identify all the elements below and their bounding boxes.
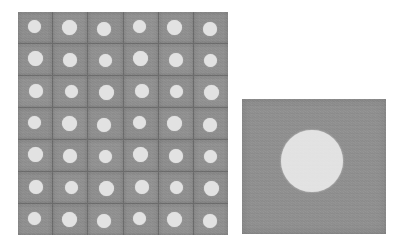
- array-feature-dot: [170, 181, 183, 194]
- array-cell[interactable]: [159, 108, 193, 139]
- array-cell[interactable]: [88, 108, 122, 139]
- array-cell[interactable]: [124, 140, 158, 171]
- array-cell[interactable]: [194, 172, 228, 203]
- array-overview-panel[interactable]: [18, 12, 228, 235]
- array-feature-dot: [203, 214, 217, 228]
- array-feature-dot: [203, 118, 217, 132]
- array-feature-dot: [97, 22, 111, 36]
- array-cell[interactable]: [53, 172, 87, 203]
- array-feature-dot: [133, 212, 146, 225]
- array-cell[interactable]: [53, 140, 87, 171]
- array-cell[interactable]: [88, 44, 122, 75]
- array-feature-dot: [133, 51, 148, 66]
- array-cell[interactable]: [159, 140, 193, 171]
- array-feature-dot: [204, 150, 217, 163]
- magnified-feature-dot: [281, 130, 343, 192]
- array-feature-dot: [135, 84, 149, 98]
- array-cell[interactable]: [18, 44, 52, 75]
- array-cell[interactable]: [194, 12, 228, 43]
- array-feature-dot: [133, 147, 148, 162]
- array-feature-dot: [97, 214, 111, 228]
- array-cell[interactable]: [124, 204, 158, 235]
- array-cell[interactable]: [194, 76, 228, 107]
- figure-root: [0, 0, 404, 250]
- feature-detail-panel[interactable]: [242, 99, 386, 234]
- array-cell[interactable]: [159, 76, 193, 107]
- array-feature-dot: [204, 54, 217, 67]
- array-feature-dot: [97, 118, 111, 132]
- array-feature-dot: [63, 149, 77, 163]
- array-feature-dot: [65, 181, 78, 194]
- array-cell[interactable]: [18, 108, 52, 139]
- array-feature-dot: [65, 85, 78, 98]
- array-feature-dot: [62, 20, 77, 35]
- array-cell[interactable]: [88, 12, 122, 43]
- array-cell[interactable]: [18, 204, 52, 235]
- array-feature-dot: [99, 181, 114, 196]
- array-feature-dot: [99, 54, 112, 67]
- array-cell[interactable]: [124, 76, 158, 107]
- array-cell[interactable]: [53, 204, 87, 235]
- array-feature-dot: [169, 149, 183, 163]
- array-feature-dot: [62, 116, 77, 131]
- array-cell[interactable]: [88, 76, 122, 107]
- array-cell[interactable]: [88, 204, 122, 235]
- array-cell[interactable]: [53, 12, 87, 43]
- array-feature-dot: [133, 20, 146, 33]
- array-feature-dot: [170, 85, 183, 98]
- array-cell[interactable]: [159, 44, 193, 75]
- array-feature-dot: [28, 116, 41, 129]
- array-cell[interactable]: [53, 44, 87, 75]
- array-feature-dot: [169, 53, 183, 67]
- array-feature-dot: [28, 212, 41, 225]
- array-feature-dot: [28, 20, 41, 33]
- array-cell[interactable]: [194, 204, 228, 235]
- array-cell[interactable]: [159, 204, 193, 235]
- array-feature-dot: [167, 20, 182, 35]
- array-cell[interactable]: [18, 12, 52, 43]
- array-cell[interactable]: [124, 44, 158, 75]
- array-cell[interactable]: [159, 12, 193, 43]
- array-cell[interactable]: [88, 140, 122, 171]
- array-feature-dot: [167, 116, 182, 131]
- array-cell[interactable]: [194, 108, 228, 139]
- array-feature-dot: [28, 147, 43, 162]
- array-grid: [18, 12, 228, 235]
- array-feature-dot: [133, 116, 146, 129]
- array-feature-dot: [99, 85, 114, 100]
- array-cell[interactable]: [124, 172, 158, 203]
- array-feature-dot: [29, 180, 43, 194]
- array-feature-dot: [135, 180, 149, 194]
- array-cell[interactable]: [124, 108, 158, 139]
- array-feature-dot: [28, 51, 43, 66]
- array-feature-dot: [204, 181, 219, 196]
- array-feature-dot: [99, 150, 112, 163]
- array-cell[interactable]: [18, 140, 52, 171]
- array-cell[interactable]: [159, 172, 193, 203]
- array-cell[interactable]: [18, 76, 52, 107]
- array-feature-dot: [62, 212, 77, 227]
- array-cell[interactable]: [194, 140, 228, 171]
- array-feature-dot: [204, 85, 219, 100]
- array-cell[interactable]: [88, 172, 122, 203]
- array-feature-dot: [167, 212, 182, 227]
- array-cell[interactable]: [124, 12, 158, 43]
- array-feature-dot: [63, 53, 77, 67]
- array-cell[interactable]: [53, 108, 87, 139]
- array-cell[interactable]: [18, 172, 52, 203]
- array-cell[interactable]: [194, 44, 228, 75]
- array-feature-dot: [29, 84, 43, 98]
- array-feature-dot: [203, 22, 217, 36]
- array-cell[interactable]: [53, 76, 87, 107]
